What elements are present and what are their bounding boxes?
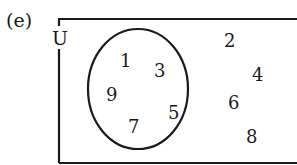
- set-element-number: 5: [168, 104, 179, 122]
- set-element-number: 7: [128, 118, 139, 136]
- set-element-number: 1: [120, 52, 131, 70]
- set-element-number: 9: [106, 86, 117, 104]
- outside-element-number: 4: [252, 66, 263, 84]
- outside-element-number: 6: [228, 94, 239, 112]
- universal-set-label: U: [52, 29, 68, 48]
- set-element-number: 3: [154, 62, 165, 80]
- outside-element-number: 2: [224, 32, 235, 50]
- universal-set-rectangle: [59, 19, 297, 26]
- outside-element-number: 8: [246, 128, 257, 146]
